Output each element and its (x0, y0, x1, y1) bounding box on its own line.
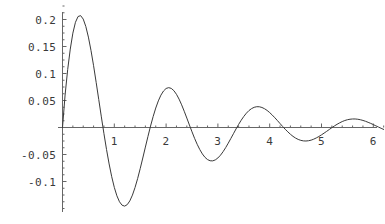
y-tick-label: -0.05 (21, 149, 57, 160)
x-tick-label: 5 (318, 136, 325, 147)
data-curve (63, 16, 384, 207)
x-tick-label: 2 (163, 136, 170, 147)
plot-figure: 0.20.150.10.05-0.05-0.1 123456 (0, 0, 385, 224)
y-tick-label: 0.15 (28, 41, 57, 52)
y-tick-label: 0.2 (35, 14, 56, 25)
y-tick-label: 0.05 (28, 95, 57, 106)
x-tick-label: 1 (111, 136, 118, 147)
x-tick-label: 3 (214, 136, 221, 147)
plot-canvas (0, 0, 385, 224)
axes-group (58, 12, 377, 212)
y-tick-label: -0.1 (28, 176, 57, 187)
x-tick-label: 6 (370, 136, 377, 147)
x-tick-label: 4 (266, 136, 273, 147)
y-tick-label: 0.1 (35, 68, 56, 79)
